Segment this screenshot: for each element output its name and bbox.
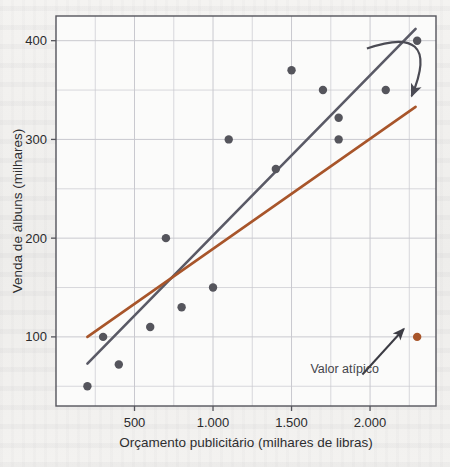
data-point [272, 165, 280, 173]
data-point [334, 135, 342, 143]
chart-canvas: 5001.0001.5002.000 100200300400 Valor at… [0, 0, 450, 467]
data-point [83, 382, 91, 390]
data-point [162, 234, 170, 242]
data-point [177, 303, 185, 311]
y-tick-label: 100 [25, 329, 47, 344]
data-point [413, 36, 421, 44]
data-point [382, 86, 390, 94]
valor-atipico-label: Valor atípico [310, 362, 379, 376]
plot-area-background [56, 16, 436, 406]
data-point [334, 113, 342, 121]
x-tick-label: 1.000 [197, 415, 230, 430]
y-tick-label: 300 [25, 132, 47, 147]
data-point [225, 135, 233, 143]
x-tick-label: 2.000 [354, 415, 387, 430]
data-point [209, 283, 217, 291]
y-tick-labels: 100200300400 [25, 33, 47, 344]
data-point [115, 360, 123, 368]
scatter-plot-figure: 5001.0001.5002.000 100200300400 Valor at… [0, 0, 450, 467]
outlier-point [413, 333, 421, 341]
data-point [146, 323, 154, 331]
x-tick-label: 500 [124, 415, 146, 430]
data-point [319, 86, 327, 94]
x-tick-labels: 5001.0001.5002.000 [124, 415, 387, 430]
y-tick-label: 200 [25, 231, 47, 246]
y-tick-label: 400 [25, 33, 47, 48]
data-point [99, 333, 107, 341]
data-point [287, 66, 295, 74]
y-axis-title: Venda de álbuns (milhares) [10, 129, 25, 293]
x-tick-label: 1.500 [275, 415, 308, 430]
x-axis-title: Orçamento publicitário (milhares de libr… [119, 435, 373, 450]
